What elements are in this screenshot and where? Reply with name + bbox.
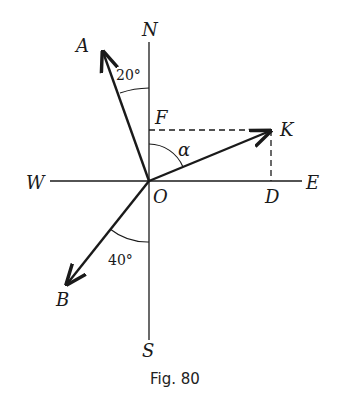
label-a: A bbox=[74, 35, 89, 56]
label-east: E bbox=[305, 172, 319, 193]
vector-ok bbox=[149, 131, 270, 181]
vector-ob bbox=[67, 181, 149, 284]
label-d: D bbox=[264, 186, 280, 207]
angle-arc-20 bbox=[120, 88, 149, 93]
angle-arc-40 bbox=[110, 229, 149, 242]
label-south: S bbox=[142, 340, 154, 361]
angle-label-20: 20° bbox=[116, 67, 141, 83]
label-origin: O bbox=[153, 186, 168, 207]
label-f: F bbox=[154, 107, 169, 128]
angle-label-40: 40° bbox=[108, 252, 133, 268]
label-b: B bbox=[55, 289, 69, 310]
label-k: K bbox=[279, 119, 295, 140]
compass-vector-diagram: N S W E O A B K D F α 20° 40° Fig. 80 bbox=[0, 0, 342, 401]
label-alpha: α bbox=[178, 139, 190, 160]
figure-caption: Fig. 80 bbox=[150, 370, 200, 388]
label-west: W bbox=[26, 172, 46, 193]
label-north: N bbox=[141, 19, 159, 40]
